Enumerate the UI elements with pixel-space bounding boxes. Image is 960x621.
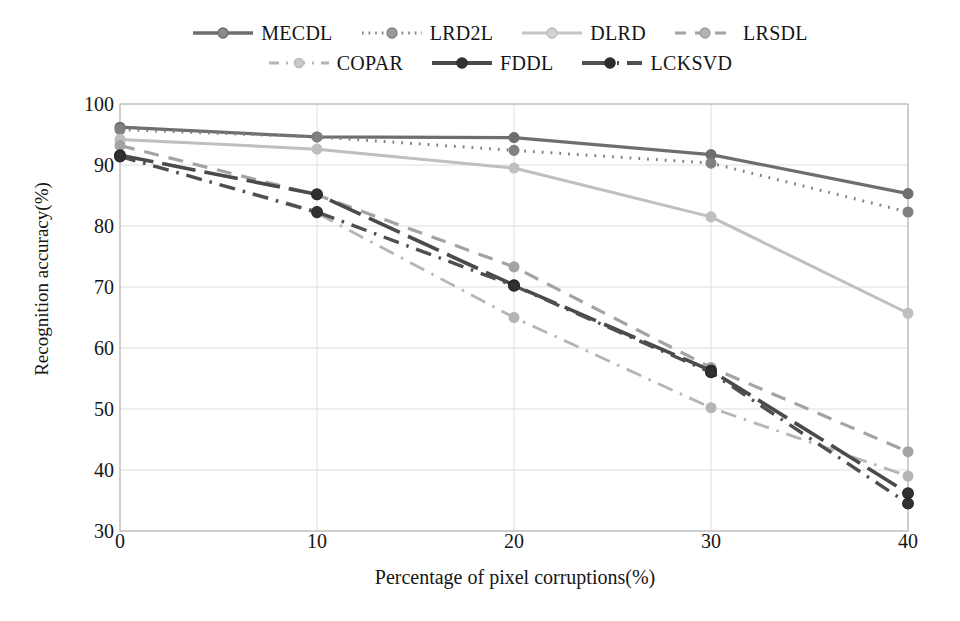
x-axis-tick-labels: 010203040 [0, 530, 960, 560]
data-point-marker [509, 313, 519, 323]
y-tick-label: 60 [68, 337, 114, 360]
chart-figure: MECDL LRD2L DLRD [0, 0, 960, 621]
data-point-marker [706, 212, 716, 222]
data-point-marker [509, 262, 519, 272]
x-tick-label: 40 [878, 530, 938, 553]
y-tick-label: 40 [68, 459, 114, 482]
data-point-marker [312, 144, 322, 154]
data-point-marker [312, 189, 323, 200]
y-axis-tick-labels: 10090807060504030 [58, 0, 114, 621]
data-point-marker [115, 151, 126, 162]
data-point-marker [509, 133, 519, 143]
x-tick-label: 30 [681, 530, 741, 553]
data-point-marker [509, 280, 520, 291]
y-axis-title: Recognition accuracy(%) [31, 119, 53, 439]
data-point-marker [903, 189, 913, 199]
x-tick-label: 0 [90, 530, 150, 553]
y-tick-label: 100 [68, 93, 114, 116]
data-point-marker [903, 471, 913, 481]
x-tick-label: 20 [484, 530, 544, 553]
y-tick-label: 50 [68, 398, 114, 421]
plot-canvas [0, 0, 960, 621]
data-point-marker [706, 367, 717, 378]
data-point-marker [903, 447, 913, 457]
x-axis-title: Percentage of pixel corruptions(%) [120, 566, 910, 589]
y-tick-label: 90 [68, 154, 114, 177]
y-tick-label: 70 [68, 276, 114, 299]
data-point-marker [903, 488, 914, 499]
data-point-marker [509, 145, 519, 155]
y-tick-label: 80 [68, 215, 114, 238]
data-point-marker [903, 308, 913, 318]
data-point-marker [312, 132, 322, 142]
data-point-marker [312, 207, 323, 218]
data-point-marker [706, 158, 716, 168]
data-point-marker [509, 163, 519, 173]
x-tick-label: 10 [287, 530, 347, 553]
data-point-marker [115, 125, 125, 135]
data-point-marker [903, 207, 913, 217]
data-point-marker [903, 498, 914, 509]
data-point-marker [706, 403, 716, 413]
data-point-marker [115, 140, 125, 150]
